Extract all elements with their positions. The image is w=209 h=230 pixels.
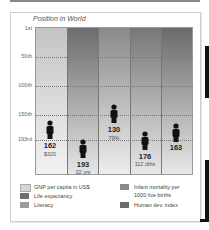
- legend-label-hdi: Human dev. index: [134, 202, 178, 208]
- legend-swatch-infant-mortality: [120, 184, 129, 190]
- top-rule: [10, 0, 200, 2]
- sub-literacy: 79%: [97, 135, 131, 141]
- y-tick-1st: 1st: [12, 25, 32, 31]
- y-tick-50th: 50th: [12, 53, 32, 59]
- rank-gnp: 162: [35, 141, 65, 150]
- person-icon: [140, 131, 150, 151]
- rank-literacy: 130: [99, 125, 129, 134]
- sub-life-expectancy: 32 yrs: [66, 169, 100, 175]
- legend-swatch-literacy: [20, 202, 29, 208]
- rank-life-expectancy: 193: [68, 160, 98, 169]
- legend-swatch-gnp: [20, 184, 31, 192]
- person-icon: [171, 123, 181, 143]
- legend-label-infant-mortality: Infant mortality per: [134, 184, 180, 190]
- legend-label-gnp: GNP per capita in US$: [34, 184, 90, 190]
- y-tick-193rd: 193rd: [12, 136, 32, 142]
- page-edge-bar: [205, 46, 209, 98]
- chart-title: Position in World: [33, 15, 86, 22]
- rank-infant-mortality: 176: [130, 152, 160, 161]
- legend-swatch-hdi: [120, 202, 129, 208]
- gridline-100th: [35, 86, 193, 87]
- column-hdi: [162, 28, 192, 174]
- y-tick-150th: 150th: [12, 111, 32, 117]
- legend-label-life-expectancy: Life expectancy: [34, 193, 72, 199]
- rank-hdi: 163: [161, 143, 191, 152]
- legend-label-literacy: Literacy: [34, 202, 53, 208]
- person-icon: [45, 120, 55, 140]
- column-literacy: [99, 28, 131, 174]
- person-icon: [78, 139, 88, 159]
- page-edge-bar: [205, 160, 209, 222]
- sub-infant-mortality: 112 dths: [128, 161, 162, 167]
- person-icon: [109, 104, 119, 124]
- gridline-50th: [35, 57, 193, 58]
- y-tick-100th: 100th: [12, 82, 32, 88]
- sub-gnp: $320: [33, 151, 67, 157]
- legend-label-infant-mortality-2: 1000 live births: [134, 192, 171, 198]
- legend-swatch-life-expectancy: [20, 193, 29, 199]
- page-edge-foot: [200, 219, 209, 222]
